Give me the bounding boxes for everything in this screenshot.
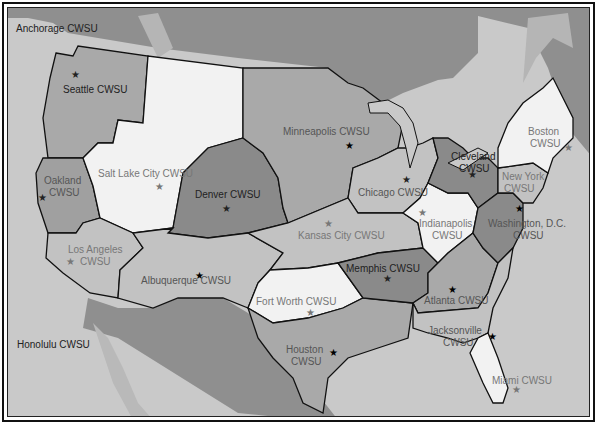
label-cleveland-1: Cleveland — [451, 151, 495, 162]
star-icon-oakland: ★ — [38, 193, 47, 203]
label-washington-dc-1: Washington, D.C. — [488, 218, 566, 229]
label-washington-dc-2: CWSU — [513, 230, 544, 241]
star-icon-chicago: ★ — [402, 175, 411, 185]
label-jacksonville-2: CWSU — [443, 337, 474, 348]
star-icon-seattle: ★ — [71, 70, 80, 80]
star-icon-salt-lake-city: ★ — [155, 182, 164, 192]
label-oakland-2: CWSU — [49, 187, 80, 198]
label-boston-2: CWSU — [530, 138, 561, 149]
label-houston-2: CWSU — [291, 356, 322, 367]
star-icon-miami: ★ — [512, 385, 521, 395]
star-icon-washington-dc: ★ — [515, 204, 524, 214]
map-canvas: Anchorage CWSU Honolulu CWSU ★ Seattle C… — [7, 7, 590, 417]
label-minneapolis: Minneapolis CWSU — [283, 126, 370, 137]
star-icon-jacksonville: ★ — [488, 332, 497, 342]
label-boston-1: Boston — [528, 126, 559, 137]
star-icon-kansas-city: ★ — [324, 219, 333, 229]
label-fort-worth: Fort Worth CWSU — [256, 296, 336, 307]
star-icon-minneapolis: ★ — [345, 141, 354, 151]
label-kansas-city: Kansas City CWSU — [298, 230, 385, 241]
label-seattle: Seattle CWSU — [63, 84, 127, 95]
star-icon-atlanta: ★ — [448, 285, 457, 295]
star-icon-houston: ★ — [329, 348, 338, 358]
label-los-angeles-2: CWSU — [80, 256, 111, 267]
map-frame: Anchorage CWSU Honolulu CWSU ★ Seattle C… — [2, 2, 595, 422]
label-new-york-1: New York — [502, 171, 544, 182]
star-icon-cleveland: ★ — [468, 170, 477, 180]
label-indianapolis-1: Indianapolis — [419, 218, 472, 229]
label-denver: Denver CWSU — [195, 189, 261, 200]
label-albuquerque: Albuquerque CWSU — [141, 275, 231, 286]
label-los-angeles-1: Los Angeles — [68, 244, 123, 255]
label-atlanta: Atlanta CWSU — [424, 295, 488, 306]
star-icon-fort-worth: ★ — [306, 308, 315, 318]
label-new-york-2: CWSU — [504, 183, 535, 194]
star-icon-memphis: ★ — [383, 274, 392, 284]
label-anchorage-cwsu: Anchorage CWSU — [16, 23, 98, 34]
label-honolulu-cwsu: Honolulu CWSU — [17, 339, 90, 350]
label-indianapolis-2: CWSU — [432, 230, 463, 241]
star-icon-los-angeles: ★ — [66, 257, 75, 267]
label-oakland-1: Oakland — [44, 175, 81, 186]
zone-miami — [470, 333, 508, 403]
star-icon-boston: ★ — [564, 143, 573, 153]
label-chicago: Chicago CWSU — [358, 187, 428, 198]
label-salt-lake-city: Salt Lake City CWSU — [98, 168, 193, 179]
star-icon-indianapolis: ★ — [418, 208, 427, 218]
label-jacksonville-1: Jacksonville — [428, 325, 482, 336]
star-icon-denver: ★ — [222, 204, 231, 214]
label-miami: Miami CWSU — [492, 375, 552, 386]
label-houston-1: Houston — [286, 344, 323, 355]
